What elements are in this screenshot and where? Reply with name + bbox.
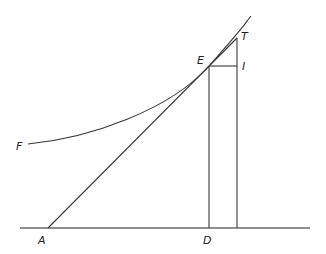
curve-fe xyxy=(28,16,251,144)
label-f: F xyxy=(16,140,23,153)
label-i: I xyxy=(242,60,245,73)
label-a: A xyxy=(37,234,46,247)
label-d: D xyxy=(203,234,211,247)
label-e: E xyxy=(197,54,204,67)
diagram-canvas: F A D E T I xyxy=(0,0,326,254)
label-t: T xyxy=(241,30,249,43)
